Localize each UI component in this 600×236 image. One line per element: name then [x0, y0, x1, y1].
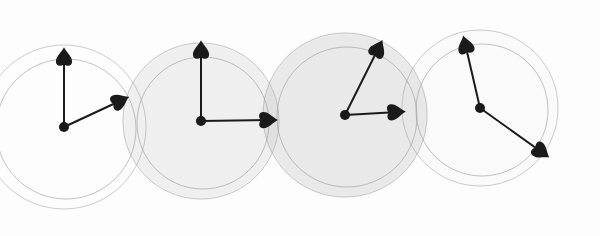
clock-hand: [201, 120, 270, 121]
clocks-drawing: [0, 0, 600, 236]
clock-center-pin: [340, 110, 350, 120]
spade-tip-icon: [56, 47, 72, 66]
clock-center-pin: [475, 103, 485, 113]
clock-center-pin: [196, 116, 206, 126]
clock-illustration: [0, 0, 600, 236]
clock-hand: [64, 100, 122, 127]
clock-center-pin: [59, 122, 69, 132]
